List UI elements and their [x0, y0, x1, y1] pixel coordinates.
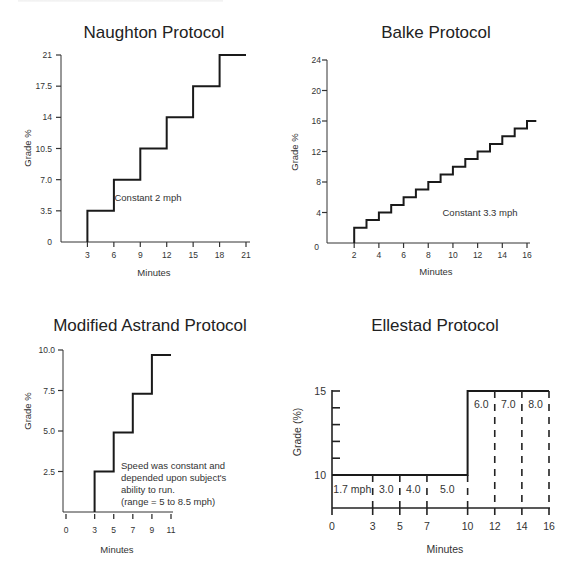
x-tick-label: 0: [64, 525, 69, 535]
y-tick-label: 20: [312, 86, 322, 96]
y-axis-label: Grade %: [289, 133, 300, 171]
x-axis-label: Minutes: [137, 267, 171, 278]
annotation: Constant 2 mph: [114, 192, 181, 203]
y-axis-label: Grade %: [22, 392, 33, 430]
y-tick-label: 10.5: [35, 144, 52, 154]
x-tick-label: 5: [397, 520, 403, 532]
svg-text:Speed was constant and: Speed was constant and: [121, 460, 225, 471]
x-tick-label: 3: [85, 250, 90, 260]
axis-ticks: 1015035710121416: [314, 385, 555, 532]
y-tick-label: 5.0: [43, 426, 55, 436]
axis-ticks: 04812162024246810121416: [312, 55, 532, 260]
y-axis-label: Grade %: [22, 129, 33, 167]
y-tick-label: 14: [43, 112, 53, 122]
data-step-line: [354, 121, 536, 243]
y-tick-label: 4: [316, 208, 321, 218]
y-tick-label: 3.5: [40, 206, 52, 216]
chart-title: Naughton Protocol: [84, 23, 225, 42]
speed-label: 5.0: [440, 483, 455, 495]
speed-labels: 1.7 mph3.04.05.06.07.08.0: [333, 398, 543, 495]
y-tick-label: 12: [312, 147, 322, 157]
x-tick-label: 10: [448, 250, 458, 260]
y-tick-label: 10.0: [38, 345, 55, 355]
svg-text:(range = 5 to 8.5 mph): (range = 5 to 8.5 mph): [121, 496, 215, 507]
chart-title: Ellestad Protocol: [371, 316, 499, 335]
x-tick-label: 3: [370, 520, 376, 532]
y-tick-label: 10: [314, 469, 326, 481]
speed-label: 7.0: [501, 398, 516, 410]
y-tick-label: 17.5: [35, 81, 52, 91]
y-tick-label: 24: [312, 55, 322, 65]
y-tick-label: 2.5: [43, 467, 55, 477]
x-tick-label: 3: [92, 525, 97, 535]
y-tick-label: 15: [314, 385, 326, 397]
speed-label: 1.7 mph: [333, 483, 371, 495]
x-tick-label: 10: [462, 520, 474, 532]
stage-dividers: [373, 391, 549, 508]
y-axis-label: Grade (%): [291, 408, 303, 456]
chart-balke: Balke Protocol 04812162024246810121416 C…: [289, 23, 536, 277]
svg-text:ability to run.: ability to run.: [121, 484, 175, 495]
y-tick-label: 21: [43, 50, 53, 60]
x-tick-label: 2: [352, 250, 357, 260]
x-axis-label: Minutes: [419, 266, 453, 277]
x-tick-label: 9: [138, 250, 143, 260]
chart-ellestad: Ellestad Protocol 1015035710121416 1.7 m…: [291, 316, 555, 555]
x-tick-label: 11: [167, 525, 176, 535]
x-tick-label: 18: [215, 250, 225, 260]
x-tick-label: 7: [130, 525, 135, 535]
x-tick-label: 12: [489, 520, 501, 532]
x-tick-label: 14: [498, 250, 508, 260]
speed-label: 4.0: [406, 483, 421, 495]
annotation: Constant 3.3 mph: [443, 207, 518, 218]
treadmill-protocols-figure: Naughton Protocol 03.57.010.51417.521369…: [0, 0, 573, 562]
x-tick-label: 16: [543, 520, 555, 532]
svg-text:depended upon subject's: depended upon subject's: [121, 472, 227, 483]
x-tick-label: 12: [473, 250, 483, 260]
y-tick-label: 7.0: [40, 175, 52, 185]
chart-title: Balke Protocol: [381, 23, 491, 42]
speed-label: 3.0: [379, 483, 394, 495]
x-axis-label: Minutes: [100, 544, 134, 555]
x-tick-label: 15: [188, 250, 198, 260]
x-tick-label: 0: [329, 520, 335, 532]
y-tick-label: 0: [314, 242, 319, 252]
x-tick-label: 6: [401, 250, 406, 260]
speed-label: 6.0: [474, 398, 489, 410]
x-tick-label: 4: [377, 250, 382, 260]
x-tick-label: 14: [516, 520, 528, 532]
x-tick-label: 8: [426, 250, 431, 260]
annotation: Speed was constant and depended upon sub…: [121, 460, 227, 507]
speed-label: 8.0: [528, 398, 543, 410]
chart-modified-astrand: Modified Astrand Protocol 2.55.07.510.00…: [22, 316, 247, 555]
chart-title: Modified Astrand Protocol: [53, 316, 247, 335]
x-axis-label: Minutes: [427, 543, 464, 555]
x-tick-label: 6: [111, 250, 116, 260]
y-tick-label: 8: [316, 177, 321, 187]
x-tick-label: 21: [241, 250, 251, 260]
y-tick-label: 16: [312, 116, 322, 126]
x-tick-label: 9: [150, 525, 155, 535]
x-tick-label: 12: [162, 250, 172, 260]
x-tick-label: 7: [424, 520, 430, 532]
data-step-line: [332, 391, 549, 475]
chart-naughton: Naughton Protocol 03.57.010.51417.521369…: [22, 23, 251, 278]
data-step-line: [87, 55, 246, 242]
y-tick-label: 7.5: [43, 386, 55, 396]
x-tick-label: 5: [111, 525, 116, 535]
x-tick-label: 16: [522, 250, 532, 260]
y-tick-label: 0: [47, 237, 52, 247]
